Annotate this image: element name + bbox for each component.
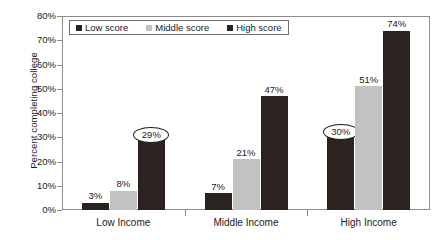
bar[interactable] [138,140,165,210]
bar-value-label: 47% [254,85,294,95]
y-axis-tick-label: 30% [26,132,56,142]
bars-layer: 3%8%29%7%21%47%30%51%74% [62,16,430,210]
bar[interactable] [233,159,260,210]
x-axis-category-label: High Income [307,217,430,228]
legend-label: High score [236,23,281,33]
x-axis-tick-mark [307,210,308,216]
x-axis-tick-mark [185,210,186,216]
legend-label: Middle score [155,23,209,33]
legend-label: Low score [85,23,128,33]
legend-swatch-icon [146,25,152,31]
y-axis-tick-label: 80% [26,11,56,21]
bar[interactable] [110,191,137,210]
bar-value-label: 30% [324,128,358,138]
chart-legend: Low scoreMiddle scoreHigh score [69,20,289,35]
y-axis-tick-mark [57,210,62,211]
y-axis-tick-label: 40% [26,108,56,118]
bar[interactable] [205,193,232,210]
y-axis-tick-label: 50% [26,84,56,94]
legend-swatch-icon [227,25,233,31]
y-axis-tick-label: 20% [26,157,56,167]
y-axis-tick-labels: 80%70%60%50%40%30%20%10%0% [26,0,56,240]
bar[interactable] [383,31,410,210]
legend-item[interactable]: Low score [76,23,128,33]
bar-value-label: 29% [134,130,168,140]
y-axis-tick-label: 10% [26,181,56,191]
legend-item[interactable]: Middle score [146,23,209,33]
legend-item[interactable]: High score [227,23,281,33]
bar[interactable] [327,137,354,210]
bar[interactable] [261,96,288,210]
circled-value-annotation: 29% [133,127,169,143]
bar-chart: Percent completing college 80%70%60%50%4… [0,0,447,240]
x-axis-category-label: Middle Income [185,217,308,228]
y-axis-tick-label: 60% [26,60,56,70]
x-axis-category-label: Low Income [62,217,185,228]
bar-value-label: 74% [377,19,417,29]
circled-value-annotation: 30% [323,124,359,140]
legend-swatch-icon [76,25,82,31]
y-axis-tick-label: 70% [26,35,56,45]
y-axis-tick-label: 0% [26,205,56,215]
bar[interactable] [82,203,109,210]
bar[interactable] [355,86,382,210]
